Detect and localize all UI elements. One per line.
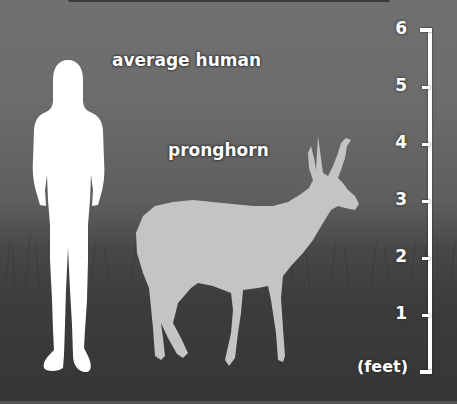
scale-tick-1: [422, 314, 430, 317]
size-comparison-graphic: average human pronghorn 6 5 4 3 2 1 (fee…: [0, 0, 457, 404]
scale-tick-top: [420, 28, 432, 32]
tick-label-4: 4: [387, 132, 407, 152]
scale-tick-2: [422, 257, 430, 260]
scale-tick-3: [422, 200, 430, 203]
tick-label-6: 6: [387, 18, 407, 38]
pronghorn-label: pronghorn: [168, 140, 269, 160]
scale-tick-4: [422, 143, 430, 146]
human-silhouette: [28, 60, 108, 378]
human-label: average human: [112, 50, 261, 70]
pronghorn-silhouette: [133, 128, 363, 368]
scale-tick-bottom: [420, 370, 432, 374]
scale-tick-5: [422, 86, 430, 89]
unit-label: (feet): [357, 357, 408, 376]
tick-label-2: 2: [387, 246, 407, 266]
tick-label-5: 5: [387, 75, 407, 95]
tick-label-1: 1: [387, 303, 407, 323]
tick-label-3: 3: [387, 189, 407, 209]
top-bar: [68, 0, 390, 2]
